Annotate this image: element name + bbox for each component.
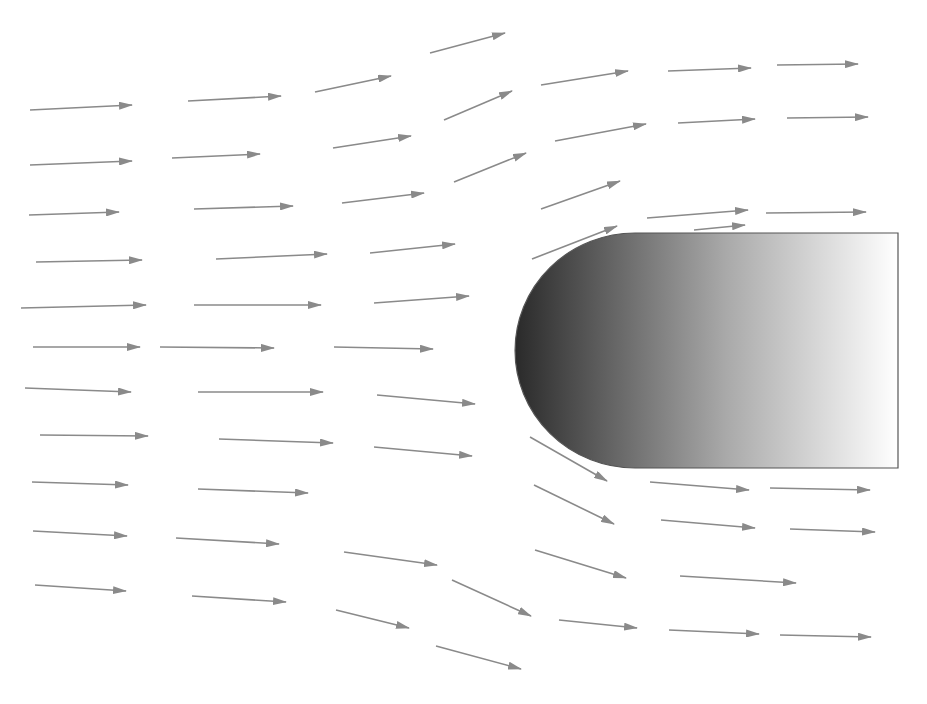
flow-arrow xyxy=(333,136,411,148)
flow-arrow xyxy=(374,296,469,303)
flow-arrow xyxy=(777,64,858,65)
flow-arrow xyxy=(790,529,875,532)
flow-arrow xyxy=(194,206,293,209)
flow-arrow xyxy=(21,305,146,308)
flow-arrow xyxy=(342,193,424,203)
flow-arrow xyxy=(344,552,437,565)
flow-arrow xyxy=(377,395,475,404)
flow-arrow xyxy=(647,210,748,218)
flow-arrow xyxy=(650,482,749,490)
flow-arrow xyxy=(534,485,614,524)
flow-arrow xyxy=(559,620,637,628)
flow-arrow xyxy=(541,71,628,85)
flow-arrow xyxy=(668,68,751,71)
flow-arrow xyxy=(555,124,646,141)
flow-arrow xyxy=(33,531,127,536)
flow-arrow xyxy=(454,153,526,182)
flow-arrow xyxy=(198,489,308,493)
flow-arrow xyxy=(678,119,755,123)
flow-arrow xyxy=(770,488,870,490)
blunt-body xyxy=(515,233,898,468)
flow-arrow xyxy=(334,347,433,349)
flow-arrow xyxy=(661,520,755,528)
flow-arrow xyxy=(160,347,274,348)
flow-arrow xyxy=(430,33,505,53)
flow-arrow xyxy=(541,181,620,209)
flow-arrow xyxy=(29,212,119,215)
flow-arrow xyxy=(694,225,745,230)
flow-arrow xyxy=(669,630,759,634)
flow-arrow xyxy=(192,596,286,602)
flow-arrow xyxy=(374,447,472,456)
flow-arrow xyxy=(188,96,281,101)
flow-arrow xyxy=(30,105,132,110)
flow-diagram xyxy=(0,0,927,704)
flow-arrow xyxy=(30,161,132,165)
flow-arrow xyxy=(176,538,279,544)
flow-arrow xyxy=(680,576,796,583)
flow-arrow xyxy=(780,635,871,637)
flow-arrow xyxy=(40,435,148,436)
flow-arrow xyxy=(787,117,868,118)
flow-arrow xyxy=(444,91,512,120)
flow-arrow xyxy=(216,254,327,259)
flow-arrow xyxy=(25,388,131,392)
flow-arrow xyxy=(436,646,521,669)
flow-arrow xyxy=(535,550,626,578)
flow-arrow xyxy=(452,580,531,616)
flow-arrow xyxy=(315,76,391,92)
flow-arrow xyxy=(219,439,333,443)
flow-arrow xyxy=(32,482,128,485)
flow-arrow xyxy=(370,244,455,253)
flow-arrow xyxy=(35,585,126,591)
flow-arrow xyxy=(336,610,409,628)
flow-arrow xyxy=(36,260,142,262)
flow-arrow xyxy=(172,154,260,158)
flow-arrow xyxy=(766,212,866,213)
